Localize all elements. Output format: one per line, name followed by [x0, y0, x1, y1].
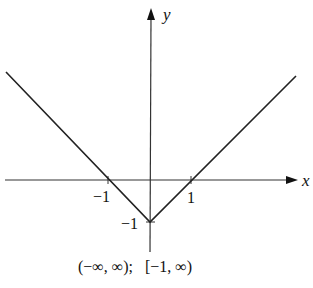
tick-label-y-neg1: −1 — [121, 215, 138, 232]
range-text: [−1, ∞) — [145, 258, 192, 275]
y-axis-arrow-icon — [147, 8, 155, 20]
y-axis-label: y — [161, 5, 171, 24]
x-axis-label: x — [301, 171, 310, 190]
tick-label-x-1: 1 — [187, 189, 195, 206]
y-axis — [150, 16, 151, 252]
graph: y x −1 1 −1 — [0, 0, 313, 288]
tick-label-x-neg1: −1 — [93, 188, 110, 205]
domain-range-caption: (−∞, ∞); [−1, ∞) — [0, 258, 270, 276]
domain-text: (−∞, ∞); — [78, 258, 133, 275]
x-axis-arrow-icon — [286, 176, 298, 184]
